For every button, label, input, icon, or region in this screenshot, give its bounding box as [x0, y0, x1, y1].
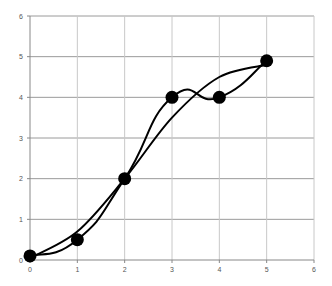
data-markers [24, 54, 274, 262]
x-tick-label: 1 [75, 266, 79, 273]
y-tick-label: 6 [19, 13, 23, 20]
curves [30, 61, 267, 258]
data-point-marker [24, 249, 37, 262]
x-tick-label: 6 [312, 266, 316, 273]
axes [27, 16, 314, 263]
x-tick-label: 2 [123, 266, 127, 273]
x-tick-label: 3 [170, 266, 174, 273]
data-point-marker [166, 91, 179, 104]
y-tick-label: 4 [19, 94, 23, 101]
data-point-marker [260, 54, 273, 67]
data-point-marker [118, 172, 131, 185]
grid-lines [30, 16, 314, 260]
y-axis-ticks: 0123456 [19, 13, 23, 264]
data-point-marker [71, 233, 84, 246]
x-axis-ticks: 0123456 [28, 266, 316, 273]
x-tick-label: 0 [28, 266, 32, 273]
x-tick-label: 5 [265, 266, 269, 273]
y-tick-label: 1 [19, 216, 23, 223]
y-tick-label: 5 [19, 53, 23, 60]
y-tick-label: 2 [19, 175, 23, 182]
y-tick-label: 0 [19, 257, 23, 264]
chart: 0123456 0123456 [0, 0, 332, 286]
data-point-marker [213, 91, 226, 104]
x-tick-label: 4 [217, 266, 221, 273]
spline-curve [30, 61, 267, 256]
y-tick-label: 3 [19, 135, 23, 142]
fit-curve [30, 65, 267, 258]
